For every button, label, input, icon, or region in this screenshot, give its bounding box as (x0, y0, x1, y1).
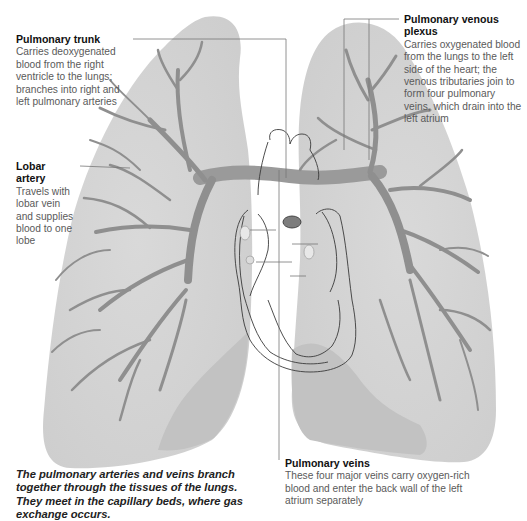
callout-body: Carries oxygenated blood from the lungs … (404, 39, 524, 126)
figure-caption: The pulmonary arteries and veins branch … (16, 468, 256, 521)
callout-title: Pulmonary trunk (16, 33, 131, 45)
callout-pulmonary-veins: Pulmonary veins These four major veins c… (285, 457, 485, 508)
callout-title: Pulmonary venous plexus (404, 13, 524, 38)
callout-body: These four major veins carry oxygen-rich… (285, 470, 485, 507)
callout-body: Travels with lobar vein and supplies blo… (16, 186, 76, 248)
callout-title: Lobar artery (16, 160, 76, 185)
callout-title: Pulmonary veins (285, 457, 485, 469)
callout-pulmonary-trunk: Pulmonary trunk Carries deoxygenated blo… (16, 33, 131, 108)
callout-pulmonary-venous-plexus: Pulmonary venous plexus Carries oxygenat… (404, 13, 524, 126)
callout-lobar-artery: Lobar artery Travels with lobar vein and… (16, 160, 76, 248)
callout-body: Carries deoxygenated blood from the righ… (16, 46, 131, 108)
